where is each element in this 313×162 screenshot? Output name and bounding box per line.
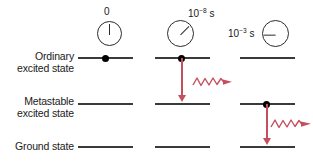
clock-label-column-1-text: 0 [104, 6, 110, 17]
clock-hand-column-2 [180, 26, 189, 35]
level-line-metastable-column-2 [155, 103, 210, 105]
clock-label-column-2: 10−8 s [188, 8, 214, 19]
energy-level-diagram: Ordinary excited state Metastable excite… [0, 0, 313, 162]
clock-label-column-3-unit: s [249, 28, 254, 39]
transition-arrowhead-column-2 [178, 95, 186, 102]
transition-arrow-column-3 [266, 104, 268, 139]
level-label-metastable-line1: Metastable [0, 95, 74, 107]
level-label-metastable: Metastable excited state [0, 95, 74, 119]
photon-wave-column-3 [270, 114, 313, 132]
clock-hand-column-3 [264, 34, 276, 35]
clock-label-column-2-unit: s [209, 8, 214, 19]
transition-arrowhead-column-3 [263, 138, 271, 145]
transition-arrow-column-2 [181, 58, 183, 96]
level-label-ordinary-line1: Ordinary [0, 50, 74, 62]
clock-label-column-3-mantissa: 10 [228, 28, 239, 39]
clock-face-column-2 [167, 20, 194, 47]
clock-label-column-2-exponent: −8 [199, 7, 207, 14]
level-line-metastable-column-1 [78, 103, 133, 105]
level-label-metastable-line2: excited state [0, 107, 74, 119]
photon-wave-column-2 [192, 72, 234, 90]
level-label-ordinary: Ordinary excited state [0, 50, 74, 74]
level-line-ground-column-3 [240, 146, 295, 148]
clock-face-column-1 [97, 21, 122, 46]
clock-label-column-1: 0 [104, 6, 110, 17]
clock-label-column-3-exponent: −3 [239, 27, 247, 34]
clock-face-column-3 [262, 20, 289, 47]
level-line-ground-column-1 [78, 146, 133, 148]
clock-hand-column-1 [109, 24, 110, 35]
level-line-ground-column-2 [155, 146, 210, 148]
level-label-ordinary-line2: excited state [0, 62, 74, 74]
level-label-ground: Ground state [0, 140, 74, 152]
clock-label-column-2-mantissa: 10 [188, 8, 199, 19]
level-label-ground-line1: Ground state [0, 140, 74, 152]
electron-dot-column-1 [102, 55, 109, 62]
clock-label-column-3: 10−3 s [228, 28, 254, 39]
level-line-ordinary-column-3 [240, 57, 295, 59]
